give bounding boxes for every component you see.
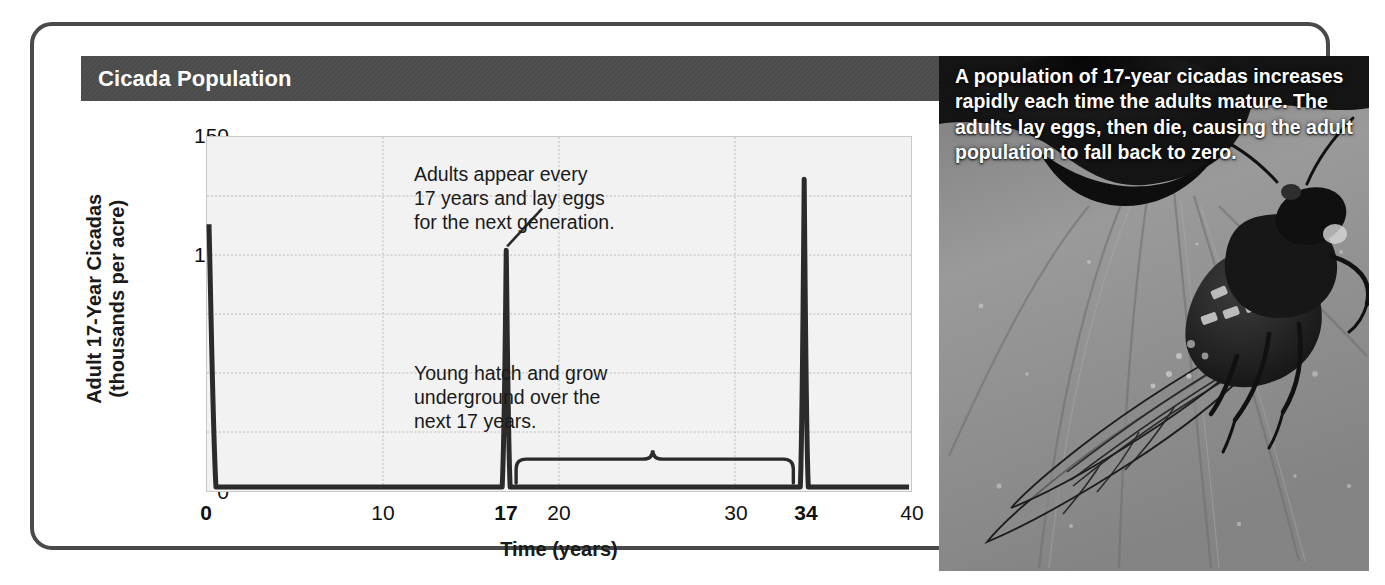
x-tick-40: 40 (877, 501, 947, 525)
photo-caption: A population of 17-year cicadas increase… (955, 64, 1355, 165)
brace-17-to-34 (516, 450, 793, 483)
cicada-photo: A population of 17-year cicadas increase… (939, 56, 1369, 571)
x-tick-0: 0 (171, 501, 241, 525)
y-axis-title-line1: Adult 17-Year Cicadas (83, 134, 106, 464)
y-axis-title: Adult 17-Year Cicadas (thousands per acr… (83, 134, 129, 464)
annotation-adults-appear: Adults appear every 17 years and lay egg… (414, 162, 615, 235)
x-tick-10: 10 (348, 501, 418, 525)
annotation-young-hatch: Young hatch and grow underground over th… (414, 361, 607, 434)
figure-frame: Cicada Population Adult 17-Year Cicadas … (30, 22, 1330, 550)
page-title: Cicada Population (98, 66, 292, 92)
x-axis-title: Time (years) (206, 538, 912, 561)
x-tick-20: 20 (524, 501, 594, 525)
y-axis-title-line2: (thousands per acre) (106, 134, 129, 464)
x-tick-34: 34 (771, 501, 841, 525)
x-tick-30: 30 (701, 501, 771, 525)
figure-title-bar: Cicada Population (81, 56, 941, 101)
chart-region: Adult 17-Year Cicadas (thousands per acr… (81, 101, 941, 571)
